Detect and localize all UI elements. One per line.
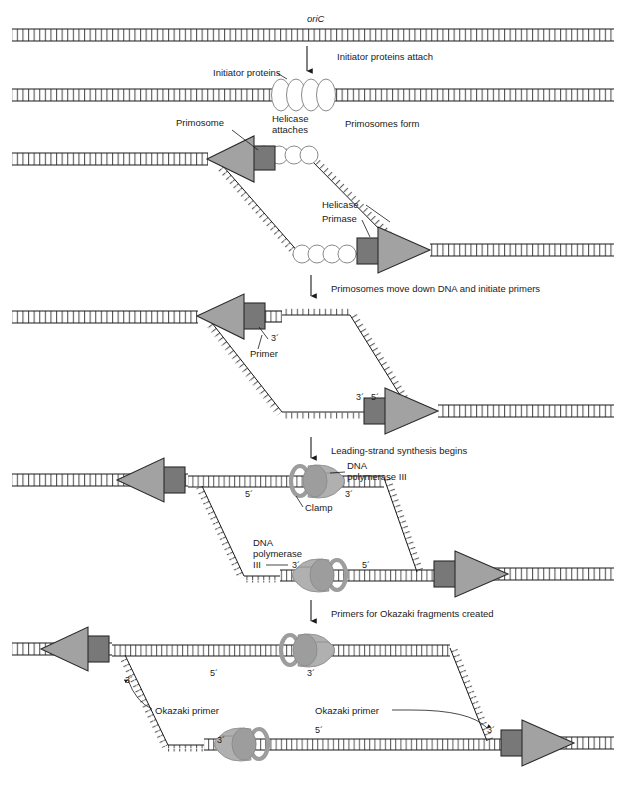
initiator-protein-group — [272, 79, 336, 111]
three-prime-lower-4: 3´ — [356, 392, 364, 402]
three-prime-upper-5: 3´ — [345, 489, 353, 499]
five-prime-upper-5: 5´ — [245, 489, 253, 499]
okazaki-primer-left-label: Okazaki primer — [155, 705, 219, 716]
three-prime-c-6: 3´ — [217, 735, 225, 745]
stage-3-primosomes-form: Primosomes form — [12, 117, 614, 296]
primosome-left-4 — [197, 294, 265, 339]
transition-5-label: Primers for Okazaki fragments created — [331, 608, 494, 619]
three-prime-b-6: 3´ — [307, 668, 315, 678]
helicase-attaches-line1: Helicase — [272, 113, 308, 124]
transition-2-label: Primosomes form — [345, 118, 420, 129]
primosome-right-5 — [434, 551, 508, 597]
dna-replication-diagram: oriC Initiator proteins attach Initiator… — [0, 0, 626, 794]
helicase-attaches-line2: attaches — [272, 124, 308, 135]
primer-label: Primer — [250, 348, 278, 359]
primosome-right-3 — [357, 227, 430, 273]
stage-5-leading-strand: Leading-strand synthesis begins — [12, 445, 614, 621]
dna-pol-iii-lower-line1: DNA — [253, 537, 274, 548]
three-prime-lower-5: 3´ — [292, 560, 300, 570]
dna-pol-iii-lower-line2: polymerase — [253, 548, 302, 559]
initiator-proteins-label: Initiator proteins — [213, 67, 281, 78]
primosome-label: Primosome — [176, 117, 224, 128]
five-prime-lower-4: 5´ — [371, 392, 379, 402]
three-prime-upper-4: 3´ — [271, 333, 279, 343]
helicase-label: Helicase — [322, 199, 358, 210]
primosome-left-5 — [117, 458, 185, 502]
dna-pol-iii-lower-line3: III — [253, 559, 261, 570]
primosome-left-6 — [41, 627, 109, 671]
primosome-left-3 — [207, 136, 275, 182]
figure-canvas: oriC Initiator proteins attach Initiator… — [0, 0, 626, 794]
transition-3-label: Primosomes move down DNA and initiate pr… — [331, 283, 540, 294]
five-prime-b-6: 5´ — [315, 725, 323, 735]
stage-6-okazaki: Primers for Okazaki fragments created — [12, 608, 614, 766]
five-prime-lower-5: 5´ — [362, 560, 370, 570]
okazaki-primer-right-label: Okazaki primer — [315, 705, 379, 716]
dna-pol-iii-upper-line2: polymerase III — [347, 471, 407, 482]
transition-4-label: Leading-strand synthesis begins — [331, 445, 468, 456]
primase-label: Primase — [322, 213, 357, 224]
stage-2-initiator-bound: Initiator proteins Helicase attaches — [12, 67, 614, 135]
dna-pol-iii-upper-line1: DNA — [347, 460, 368, 471]
transition-1-label: Initiator proteins attach — [337, 51, 433, 62]
oric-label: oriC — [307, 13, 325, 24]
primosome-right-6 — [501, 720, 574, 766]
clamp-label: Clamp — [305, 502, 332, 513]
stage-1-duplex: oriC Initiator proteins attach — [12, 13, 614, 71]
five-prime-a-6: 5´ — [210, 668, 218, 678]
three-prime-d-6: 3´ — [487, 725, 495, 735]
stage-4-primers: Primosomes move down DNA and initiate pr… — [12, 283, 614, 458]
